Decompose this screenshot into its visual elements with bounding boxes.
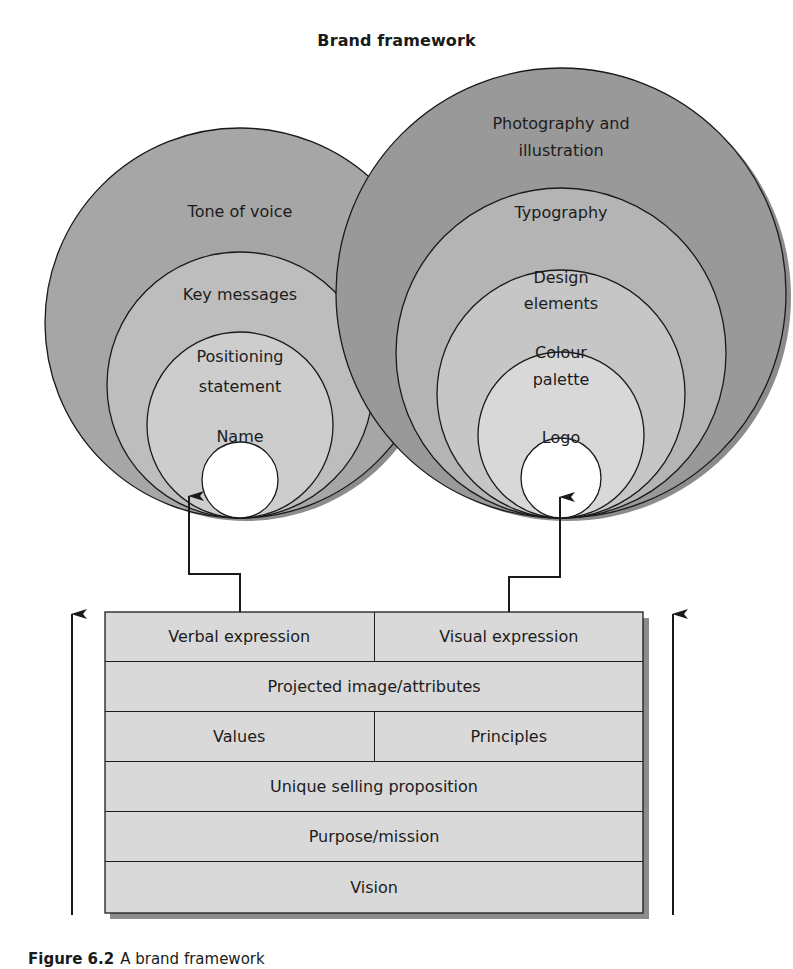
label-tone-of-voice: Tone of voice <box>187 202 293 221</box>
stack-row-vision: Vision <box>105 862 643 912</box>
cell-unique-selling-proposition: Unique selling proposition <box>105 762 643 811</box>
label-key-messages: Key messages <box>183 285 297 304</box>
stack-row-values-principles: Values Principles <box>105 712 643 762</box>
label-colour-line1: Colour <box>535 343 587 362</box>
figure-number: Figure 6.2 <box>28 950 114 968</box>
figure-caption: Figure 6.2A brand framework <box>28 950 265 968</box>
label-name: Name <box>216 427 263 446</box>
stack-row-expression: Verbal expression Visual expression <box>105 612 643 662</box>
label-colour-line2: palette <box>533 370 590 389</box>
label-design-line1: Design <box>533 268 588 287</box>
label-positioning-line2: statement <box>199 377 281 396</box>
label-typography: Typography <box>514 203 608 222</box>
stack-row-projected-image: Projected image/attributes <box>105 662 643 712</box>
cell-values: Values <box>105 712 375 761</box>
label-photography-line1: Photography and <box>492 114 629 133</box>
cell-verbal-expression: Verbal expression <box>105 612 375 661</box>
cell-principles: Principles <box>375 712 644 761</box>
caption-text: A brand framework <box>120 950 265 968</box>
cell-projected-image: Projected image/attributes <box>105 662 643 711</box>
ring-name <box>202 442 278 518</box>
stack-row-purpose: Purpose/mission <box>105 812 643 862</box>
cell-purpose-mission: Purpose/mission <box>105 812 643 861</box>
stack-row-usp: Unique selling proposition <box>105 762 643 812</box>
label-logo: Logo <box>542 428 580 447</box>
cell-visual-expression: Visual expression <box>375 612 644 661</box>
label-positioning-line1: Positioning <box>196 347 283 366</box>
label-photography-line2: illustration <box>518 141 603 160</box>
cell-vision: Vision <box>105 862 643 912</box>
label-design-line2: elements <box>524 294 598 313</box>
visual-expression-circles: Photography and illustration Typography … <box>336 68 791 521</box>
